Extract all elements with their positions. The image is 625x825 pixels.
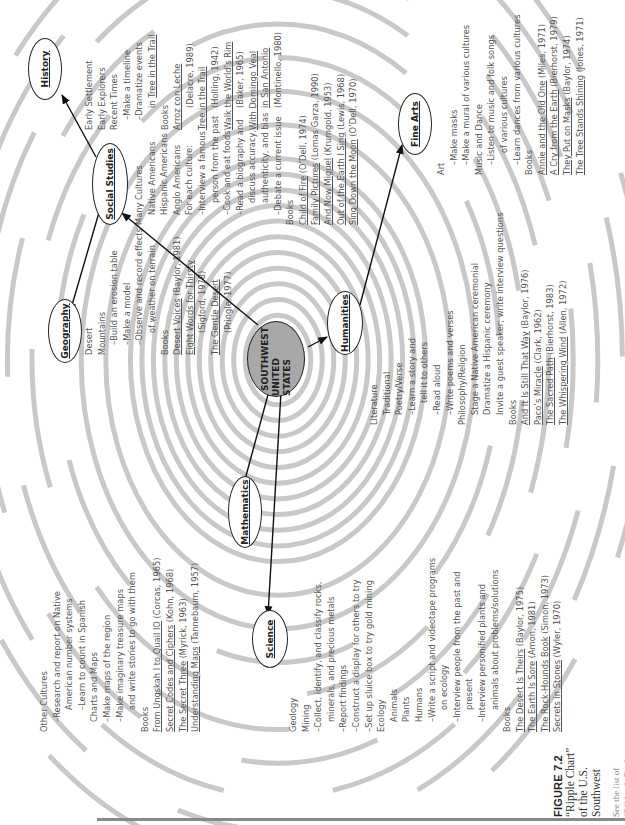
rotated-page: FIGURE 7.2 “Ripple Chart” of the U.S. So…	[0, 0, 625, 825]
arrow-social-studies-to-geography	[70, 209, 100, 312]
arrow-humanities-to-fine-arts	[360, 145, 402, 305]
arrow-center-to-humanities	[308, 337, 327, 347]
center-node-southwest: SOUTHWEST UNITED STATES	[247, 321, 305, 397]
fine-arts-node: Fine Arts	[398, 93, 432, 155]
connector-arrows	[0, 0, 625, 825]
arrow-center-to-science	[268, 375, 282, 615]
center-label-line2: UNITED STATES	[271, 322, 293, 396]
center-label-line1: SOUTHWEST	[260, 327, 271, 391]
arrow-social-studies-to-history	[62, 95, 96, 157]
mathematics-node: Mathematics	[228, 476, 262, 548]
humanities-node: Humanities	[327, 291, 363, 355]
social-studies-node: Social Studies	[92, 143, 128, 225]
science-node: Science	[252, 610, 288, 668]
history-node: History	[28, 38, 62, 100]
arrow-center-to-social-studies	[122, 213, 258, 325]
geography-node: Geography	[48, 299, 82, 363]
